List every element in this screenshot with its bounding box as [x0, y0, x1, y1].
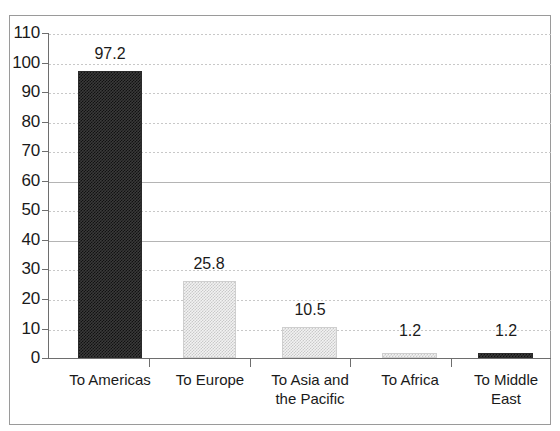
y-tick-label-90: 90 [0, 83, 40, 100]
y-tick-mark-60 [42, 181, 49, 182]
category-tick-4 [451, 359, 452, 367]
y-tick-label-10: 10 [0, 320, 40, 337]
y-tick-mark-30 [42, 269, 49, 270]
bar-to-middle-east[interactable] [478, 353, 533, 358]
bar-value-to-middle-east: 1.2 [466, 323, 546, 339]
y-tick-label-70: 70 [0, 142, 40, 159]
y-tick-mark-0 [42, 358, 49, 359]
y-tick-label-110: 110 [0, 24, 40, 41]
y-tick-label-30: 30 [0, 260, 40, 277]
bar-to-asia-and-the-pacific[interactable] [282, 327, 337, 358]
y-tick-mark-50 [42, 210, 49, 211]
y-tick-mark-110 [42, 33, 49, 34]
y-tick-label-80: 80 [0, 113, 40, 130]
y-tick-mark-100 [42, 63, 49, 64]
y-tick-label-60: 60 [0, 172, 40, 189]
bar-value-to-africa: 1.2 [370, 323, 450, 339]
y-tick-mark-20 [42, 299, 49, 300]
y-tick-mark-80 [42, 122, 49, 123]
y-axis-line [48, 33, 49, 359]
gridline-110 [49, 34, 551, 35]
bar-value-to-europe: 25.8 [169, 256, 249, 272]
bar-to-africa[interactable] [382, 353, 437, 358]
category-label-to-middle-east: To Middle East [446, 370, 560, 408]
y-axis-tick-labels: 110 100 90 80 70 60 50 40 30 20 10 0 [0, 0, 40, 410]
gridline-100 [49, 64, 551, 65]
x-axis-line [48, 358, 551, 359]
y-tick-mark-70 [42, 151, 49, 152]
category-tick-1 [149, 359, 150, 367]
bar-to-americas[interactable] [78, 71, 142, 358]
y-tick-label-0: 0 [0, 349, 40, 366]
category-tick-3 [350, 359, 351, 367]
y-tick-mark-10 [42, 329, 49, 330]
bar-value-to-asia-and-the-pacific: 10.5 [270, 302, 350, 318]
bar-value-to-americas: 97.2 [70, 46, 150, 62]
y-tick-label-50: 50 [0, 201, 40, 218]
y-tick-mark-90 [42, 92, 49, 93]
y-tick-label-20: 20 [0, 290, 40, 307]
y-tick-mark-40 [42, 240, 49, 241]
y-tick-label-100: 100 [0, 54, 40, 71]
bar-to-europe[interactable] [183, 281, 236, 358]
category-tick-2 [250, 359, 251, 367]
y-tick-label-40: 40 [0, 231, 40, 248]
